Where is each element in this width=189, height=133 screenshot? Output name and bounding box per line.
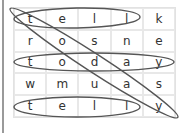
grid-cell[interactable]: o bbox=[46, 52, 78, 74]
grid-cell[interactable]: o bbox=[46, 30, 78, 52]
grid-cell[interactable]: s bbox=[78, 30, 110, 52]
grid-cell[interactable]: t bbox=[14, 8, 46, 30]
grid-cell[interactable]: l bbox=[78, 95, 110, 117]
grid-cell[interactable]: m bbox=[46, 73, 78, 95]
grid-cell[interactable]: e bbox=[143, 30, 175, 52]
grid-cell[interactable]: y bbox=[143, 52, 175, 74]
grid-cell[interactable]: a bbox=[111, 73, 143, 95]
grid-cell[interactable]: a bbox=[111, 52, 143, 74]
grid-cell[interactable]: e bbox=[46, 8, 78, 30]
grid-cell[interactable]: s bbox=[143, 73, 175, 95]
grid-cell[interactable]: k bbox=[143, 8, 175, 30]
grid-cell[interactable]: w bbox=[14, 73, 46, 95]
grid-cell[interactable]: t bbox=[14, 52, 46, 74]
grid-cell[interactable]: l bbox=[111, 8, 143, 30]
grid-cell[interactable]: n bbox=[111, 30, 143, 52]
grid-cell[interactable]: e bbox=[46, 95, 78, 117]
left-margin-rule bbox=[2, 0, 4, 133]
word-search-grid: t e l l k r o s n e t o d a y w m u a s … bbox=[13, 7, 176, 118]
grid-cell[interactable]: l bbox=[111, 95, 143, 117]
grid-cell[interactable]: r bbox=[14, 30, 46, 52]
grid-cell[interactable]: y bbox=[143, 95, 175, 117]
grid-cell[interactable]: d bbox=[78, 52, 110, 74]
grid-cell[interactable]: u bbox=[78, 73, 110, 95]
grid-cell[interactable]: t bbox=[14, 95, 46, 117]
grid-cell[interactable]: l bbox=[78, 8, 110, 30]
